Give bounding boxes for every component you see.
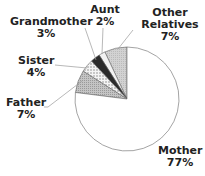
leader-aunt	[102, 28, 103, 54]
label-pct: 2%	[90, 16, 120, 28]
pie-slices	[75, 47, 179, 151]
label-pct: 77%	[158, 157, 202, 169]
label-mother: Mother 77%	[158, 145, 202, 169]
label-grandmother: Grandmother 3%	[10, 16, 82, 40]
label-pct: 7%	[6, 109, 46, 121]
label-other-relatives: Other Relatives 7%	[138, 7, 202, 43]
label-sister: Sister 4%	[18, 55, 54, 79]
leader-other	[118, 30, 133, 49]
label-pct: 3%	[10, 28, 82, 40]
label-pct: 4%	[18, 67, 54, 79]
leader-grandmother	[85, 28, 96, 60]
label-aunt: Aunt 2%	[90, 4, 120, 28]
label-pct: 7%	[138, 31, 202, 43]
label-father: Father 7%	[6, 97, 46, 121]
leader-sister	[55, 65, 87, 68]
